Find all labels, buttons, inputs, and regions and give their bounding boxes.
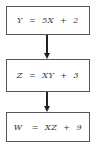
flowchart-node-y: Y = 5X + 2 bbox=[6, 6, 90, 35]
flowchart-node-z: Z = XY + 3 bbox=[6, 59, 90, 92]
node-label-w: W = XZ + 9 bbox=[14, 123, 82, 132]
arrow-line-1 bbox=[46, 35, 48, 53]
flowchart-node-w: W = XZ + 9 bbox=[6, 112, 90, 142]
arrow-line-2 bbox=[46, 92, 48, 106]
node-label-z: Z = XY + 3 bbox=[17, 71, 79, 80]
node-label-y: Y = 5X + 2 bbox=[17, 16, 79, 25]
